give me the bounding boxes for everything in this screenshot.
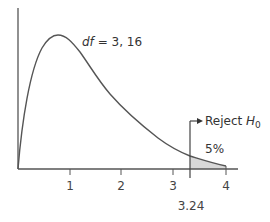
x-tick-label-4: 4	[222, 179, 230, 193]
density-curve	[18, 35, 226, 169]
x-tick-label-1: 1	[66, 179, 74, 193]
reject-arrow-head-icon	[197, 118, 203, 124]
reject-h0-label: Reject H0	[205, 114, 261, 130]
x-tick-label-2: 2	[117, 179, 125, 193]
critical-value-label: 3.24	[178, 199, 205, 213]
f-distribution-chart: 1 2 3 4 Reject H0 5% 3.24 df = 3, 16	[0, 0, 270, 222]
shaded-area-label: 5%	[205, 142, 224, 156]
reject-sub: 0	[255, 120, 261, 130]
df-label: df = 3, 16	[82, 35, 142, 49]
reject-var: H	[246, 114, 255, 128]
x-tick-label-3: 3	[169, 179, 177, 193]
df-value: = 3, 16	[94, 35, 142, 49]
reject-text: Reject	[205, 114, 246, 128]
